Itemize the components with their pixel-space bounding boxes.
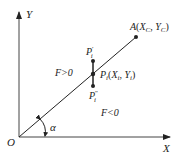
angle-arc (40, 119, 45, 136)
line-OA (19, 37, 136, 137)
angle-label: α (50, 121, 56, 133)
region-above-label: F>0 (54, 67, 73, 78)
point-P-label: Pi(Xi, Yi) (99, 69, 135, 82)
point-A (134, 35, 138, 39)
line-interpolation-diagram: Y X O A(XC, YC) P′i Pi(Xi, Yi) P″i F>0 F… (0, 0, 184, 157)
region-below-label: F<0 (100, 107, 119, 118)
y-axis-label: Y (26, 8, 34, 20)
point-P-dprime-label: P″i (88, 89, 98, 104)
origin-label: O (7, 136, 15, 148)
point-P (91, 72, 95, 76)
x-axis-label: X (162, 142, 171, 154)
point-A-label: A(XC, YC) (129, 21, 169, 34)
point-P-dprime (91, 84, 95, 88)
point-P-prime-label: P′i (85, 45, 94, 60)
